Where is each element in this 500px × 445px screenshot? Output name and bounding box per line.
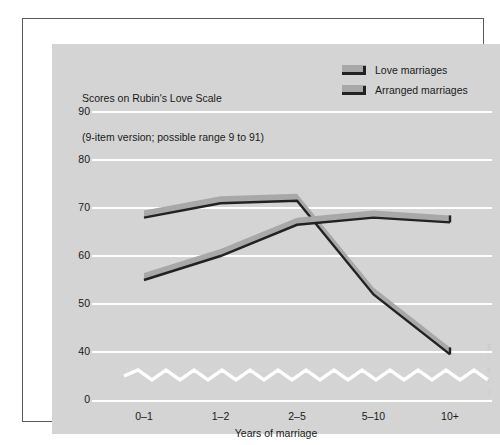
figure-frame: Scores on Rubin's Love Scale (9-item ver…: [22, 18, 484, 422]
x-axis-tick-label: 2–5: [267, 410, 327, 422]
series-band: [144, 211, 450, 280]
figure: Scores on Rubin's Love Scale (9-item ver…: [0, 0, 500, 445]
plot-area: 90807060504000–11–22–55–1010+: [52, 44, 500, 434]
x-axis-tick-label: 5–10: [344, 410, 404, 422]
chart-panel: Scores on Rubin's Love Scale (9-item ver…: [52, 44, 500, 434]
series-lines: [52, 44, 500, 434]
side-caption: F i e r c: [487, 342, 500, 397]
x-axis-tick-label: 1–2: [191, 410, 251, 422]
series-edge: [144, 218, 450, 280]
x-axis-tick-label: 10+: [420, 410, 480, 422]
x-axis-title: Years of marriage: [52, 427, 500, 439]
x-axis-tick-label: 0–1: [114, 410, 174, 422]
